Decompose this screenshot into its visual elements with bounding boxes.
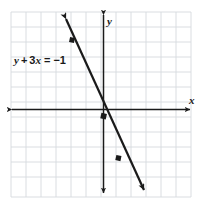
equation-annotation: y+3x=−1 — [12, 54, 66, 66]
coordinate-plane-svg: y x y+3x=−1 — [0, 0, 202, 210]
line-point-marker — [69, 37, 75, 43]
equation-term-y: y — [12, 54, 19, 66]
y-axis-label: y — [105, 15, 112, 27]
equation-value: −1 — [53, 54, 66, 66]
line-point-marker-y-intercept — [100, 113, 107, 120]
equation-term-x: x — [34, 54, 41, 66]
equation-plus: + — [21, 54, 27, 66]
graph-figure: y x y+3x=−1 — [0, 0, 202, 210]
equation-equals: = — [44, 54, 50, 66]
line-point-marker — [115, 155, 121, 161]
x-axis-label: x — [188, 94, 195, 106]
